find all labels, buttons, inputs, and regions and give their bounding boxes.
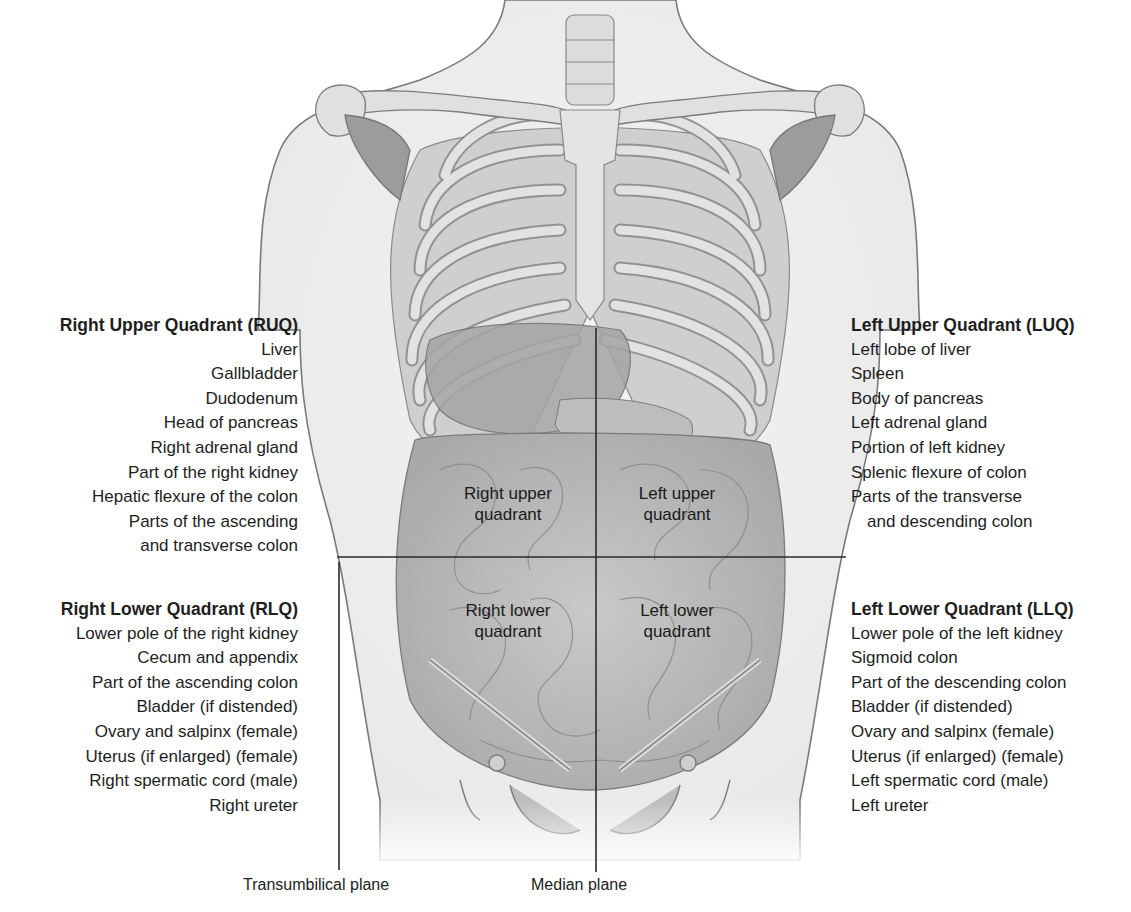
rlq-item: Right ureter bbox=[61, 794, 298, 819]
llq-item: Left spermatic cord (male) bbox=[851, 769, 1074, 794]
luq-item: Parts of the transverse bbox=[851, 485, 1075, 510]
rlq-organ-list: Right Lower Quadrant (RLQ) Lower pole of… bbox=[61, 597, 298, 818]
llq-item: Left ureter bbox=[851, 794, 1074, 819]
ruq-item: Part of the right kidney bbox=[60, 461, 298, 486]
ruq-organ-list: Right Upper Quadrant (RUQ) Liver Gallbla… bbox=[60, 313, 298, 559]
ruq-item: Liver bbox=[60, 338, 298, 363]
llq-item: Part of the descending colon bbox=[851, 671, 1074, 696]
rlq-item: Cecum and appendix bbox=[61, 646, 298, 671]
ruq-figure-label: Right upper quadrant bbox=[443, 483, 573, 525]
luq-item: Left lobe of liver bbox=[851, 338, 1075, 363]
llq-item: Lower pole of the left kidney bbox=[851, 622, 1074, 647]
luq-figure-label: Left upper quadrant bbox=[612, 483, 742, 525]
rlq-item: Right spermatic cord (male) bbox=[61, 769, 298, 794]
luq-item: and descending colon bbox=[851, 510, 1075, 535]
ruq-item: Hepatic flexure of the colon bbox=[60, 485, 298, 510]
llq-title: Left Lower Quadrant (LLQ) bbox=[851, 597, 1074, 622]
luq-item: Body of pancreas bbox=[851, 387, 1075, 412]
transumbilical-plane-label: Transumbilical plane bbox=[243, 876, 389, 894]
ruq-title: Right Upper Quadrant (RUQ) bbox=[60, 313, 298, 338]
luq-item: Splenic flexure of colon bbox=[851, 461, 1075, 486]
ruq-item: Dudodenum bbox=[60, 387, 298, 412]
luq-item: Spleen bbox=[851, 362, 1075, 387]
luq-item: Portion of left kidney bbox=[851, 436, 1075, 461]
llq-figure-label: Left lower quadrant bbox=[612, 600, 742, 642]
rlq-title: Right Lower Quadrant (RLQ) bbox=[61, 597, 298, 622]
rlq-item: Part of the ascending colon bbox=[61, 671, 298, 696]
llq-item: Bladder (if distended) bbox=[851, 695, 1074, 720]
llq-organ-list: Left Lower Quadrant (LLQ) Lower pole of … bbox=[851, 597, 1074, 818]
ruq-item: Head of pancreas bbox=[60, 411, 298, 436]
llq-item: Sigmoid colon bbox=[851, 646, 1074, 671]
cervical-spine bbox=[566, 15, 614, 105]
llq-item: Ovary and salpinx (female) bbox=[851, 720, 1074, 745]
llq-item: Uterus (if enlarged) (female) bbox=[851, 745, 1074, 770]
rlq-item: Ovary and salpinx (female) bbox=[61, 720, 298, 745]
ruq-item: and transverse colon bbox=[60, 534, 298, 559]
ruq-item: Parts of the ascending bbox=[60, 510, 298, 535]
rlq-item: Uterus (if enlarged) (female) bbox=[61, 745, 298, 770]
rlq-figure-label: Right lower quadrant bbox=[443, 600, 573, 642]
rlq-item: Bladder (if distended) bbox=[61, 695, 298, 720]
luq-organ-list: Left Upper Quadrant (LUQ) Left lobe of l… bbox=[851, 313, 1075, 534]
luq-item: Left adrenal gland bbox=[851, 411, 1075, 436]
ruq-item: Gallbladder bbox=[60, 362, 298, 387]
luq-title: Left Upper Quadrant (LUQ) bbox=[851, 313, 1075, 338]
ruq-item: Right adrenal gland bbox=[60, 436, 298, 461]
rlq-item: Lower pole of the right kidney bbox=[61, 622, 298, 647]
median-plane-label: Median plane bbox=[531, 876, 627, 894]
